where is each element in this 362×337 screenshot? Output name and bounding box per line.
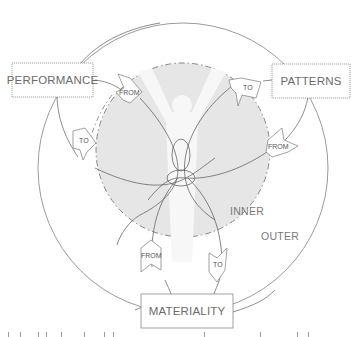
arrow-performance-from-label: FROM (119, 89, 140, 96)
zone-inner-label: INNER (230, 205, 264, 217)
zone-outer-label: OUTER (261, 230, 299, 242)
arrow-patterns-to-label: TO (243, 84, 253, 91)
arrow-patterns-from: FROM (266, 128, 298, 157)
arrow-materiality-to-label: TO (213, 261, 223, 268)
node-materiality-label: MATERIALITY (149, 305, 226, 317)
relationship-diagram: PERFORMANCE PATTERNS MATERIALITY FROM TO… (0, 0, 362, 337)
arrow-patterns-from-label: FROM (268, 143, 289, 150)
node-performance[interactable]: PERFORMANCE (7, 63, 99, 97)
node-performance-label: PERFORMANCE (7, 74, 99, 86)
node-patterns-label: PATTERNS (280, 75, 341, 87)
arrow-materiality-from-label: FROM (141, 252, 162, 259)
node-materiality[interactable]: MATERIALITY (141, 294, 233, 328)
arrow-performance-to-label: TO (79, 137, 89, 144)
node-patterns[interactable]: PATTERNS (272, 64, 350, 98)
arrow-materiality-to: TO (209, 248, 227, 282)
arrow-materiality-from: FROM (141, 240, 162, 272)
clipped-caption (0, 331, 362, 337)
